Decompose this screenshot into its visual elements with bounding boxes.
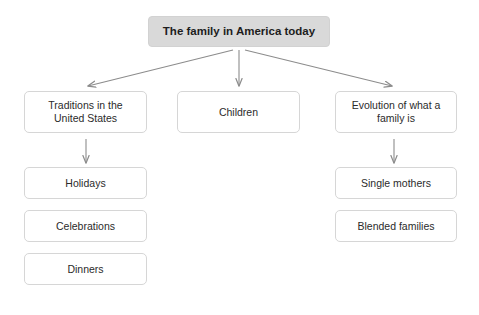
- node-single-mothers[interactable]: Single mothers: [335, 167, 457, 199]
- node-title-family-in-america[interactable]: The family in America today: [148, 16, 330, 47]
- node-children[interactable]: Children: [177, 91, 300, 133]
- node-blended-families-label: Blended families: [351, 220, 440, 233]
- node-blended-families[interactable]: Blended families: [335, 210, 457, 242]
- arrow-root-to-traditions: [88, 50, 233, 86]
- node-dinners-label: Dinners: [61, 263, 109, 276]
- node-holidays[interactable]: Holidays: [24, 167, 147, 199]
- node-traditions-in-the-united-states[interactable]: Traditions in the United States: [24, 91, 147, 133]
- node-celebrations[interactable]: Celebrations: [24, 210, 147, 242]
- diagram-canvas: The family in America today Traditions i…: [0, 0, 479, 315]
- node-children-label: Children: [213, 106, 264, 119]
- node-celebrations-label: Celebrations: [50, 220, 121, 233]
- node-title-label: The family in America today: [157, 24, 321, 38]
- node-traditions-label: Traditions in the United States: [42, 99, 128, 125]
- node-evolution-of-what-a-family-is[interactable]: Evolution of what a family is: [335, 91, 457, 133]
- node-holidays-label: Holidays: [59, 177, 111, 190]
- node-single-mothers-label: Single mothers: [355, 177, 437, 190]
- node-dinners[interactable]: Dinners: [24, 253, 147, 285]
- arrow-root-to-evolution: [245, 50, 392, 86]
- node-evolution-label: Evolution of what a family is: [346, 99, 447, 125]
